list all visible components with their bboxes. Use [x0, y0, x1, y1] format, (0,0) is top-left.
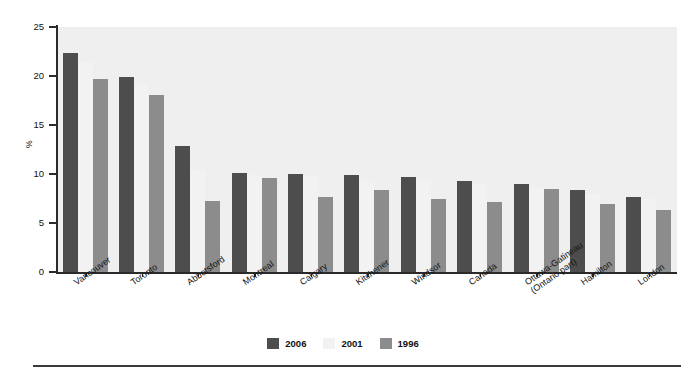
legend-swatch-1996 [380, 338, 392, 349]
chart-legend: 200620011996 [0, 338, 686, 349]
bar-chart: 0510152025 % VancouverTorontoAbbotsfordM… [0, 0, 686, 377]
footer-divider [33, 365, 681, 367]
y-axis-tick-label: 5 [18, 217, 44, 228]
bar-vancouver-1996[interactable] [93, 79, 108, 272]
bar-windsor-2006[interactable] [401, 177, 416, 272]
legend-item-1996[interactable]: 1996 [380, 338, 419, 349]
y-axis-tick [49, 124, 57, 126]
bar-kitchener-2006[interactable] [344, 175, 359, 272]
legend-item-2006[interactable]: 2006 [267, 338, 306, 349]
bar-group [113, 27, 169, 272]
bar-toronto-2006[interactable] [119, 77, 134, 272]
legend-label-2006: 2006 [285, 338, 306, 349]
y-axis-tick-label: 15 [18, 119, 44, 130]
bar-group [621, 27, 677, 272]
legend-label-1996: 1996 [398, 338, 419, 349]
bar-group [226, 27, 282, 272]
bar-group [339, 27, 395, 272]
bar-calgary-2001[interactable] [303, 176, 318, 272]
y-axis-tick [49, 26, 57, 28]
y-axis-tick-label: 10 [18, 168, 44, 179]
bar-calgary-2006[interactable] [288, 174, 303, 272]
bar-london-2001[interactable] [641, 199, 656, 272]
bar-toronto-2001[interactable] [134, 85, 149, 272]
bar-toronto-1996[interactable] [149, 95, 164, 272]
bar-group [395, 27, 451, 272]
bar-windsor-2001[interactable] [416, 179, 431, 272]
legend-swatch-2001 [323, 338, 335, 349]
y-axis-tick [49, 222, 57, 224]
bar-canada-2001[interactable] [472, 184, 487, 272]
bar-group [508, 27, 564, 272]
bar-hamilton-2001[interactable] [585, 194, 600, 272]
bar-group [282, 27, 338, 272]
bar-group [452, 27, 508, 272]
bar-canada-1996[interactable] [487, 202, 502, 272]
bars-container [57, 27, 677, 272]
bar-ottawa-gatineau-ontario-part-2001[interactable] [529, 188, 544, 272]
bar-group [564, 27, 620, 272]
bar-ottawa-gatineau-ontario-part-2006[interactable] [514, 184, 529, 272]
bar-vancouver-2001[interactable] [78, 62, 93, 272]
legend-label-2001: 2001 [341, 338, 362, 349]
bar-vancouver-2006[interactable] [63, 53, 78, 272]
bar-montreal-2006[interactable] [232, 173, 247, 272]
legend-swatch-2006 [267, 338, 279, 349]
bar-abbotsford-2001[interactable] [190, 170, 205, 272]
bar-london-2006[interactable] [626, 197, 641, 272]
bar-kitchener-2001[interactable] [359, 181, 374, 272]
y-axis-tick-label: 20 [18, 70, 44, 81]
bar-abbotsford-2006[interactable] [175, 146, 190, 272]
y-axis-tick [49, 75, 57, 77]
x-axis-labels: VancouverTorontoAbbotsfordMontrealCalgar… [0, 272, 686, 342]
bar-canada-2006[interactable] [457, 181, 472, 272]
bar-group [57, 27, 113, 272]
y-axis-tick [49, 173, 57, 175]
bar-calgary-1996[interactable] [318, 197, 333, 272]
y-axis-tick-label: 25 [18, 21, 44, 32]
bar-group [170, 27, 226, 272]
legend-item-2001[interactable]: 2001 [323, 338, 362, 349]
bar-montreal-2001[interactable] [247, 175, 262, 272]
y-axis-title: % [24, 140, 34, 148]
